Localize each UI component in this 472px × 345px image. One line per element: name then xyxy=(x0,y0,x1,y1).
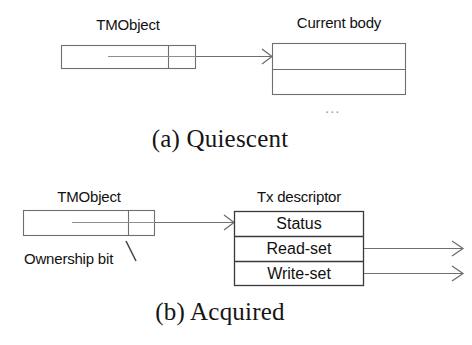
panel-b-caption: (b) Acquired xyxy=(120,298,320,326)
figure-canvas: TMObject Current body ... (a) Quiescent … xyxy=(0,0,472,345)
current-body-ellipsis: ... xyxy=(325,99,341,116)
ownership-bit-label: Ownership bit xyxy=(24,250,113,267)
tx-descriptor-label: Tx descriptor xyxy=(239,188,359,205)
panel-a-caption: (a) Quiescent xyxy=(120,125,320,153)
current-body-label: Current body xyxy=(279,14,399,31)
tx-row-read-set: Read-set xyxy=(234,240,364,258)
diagram-vector-layer xyxy=(0,0,472,345)
ownership-bit-leader-line xyxy=(126,241,136,261)
tmobject-label-a: TMObject xyxy=(68,16,188,33)
tmobject-label-b: TMObject xyxy=(29,188,149,205)
tx-row-status: Status xyxy=(234,215,364,233)
panel-a-graphics xyxy=(62,44,406,95)
tx-row-write-set: Write-set xyxy=(234,265,364,283)
